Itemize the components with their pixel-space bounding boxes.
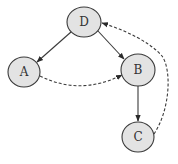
graph-diagram: D A B C	[0, 0, 178, 164]
node-b-label: B	[134, 63, 143, 77]
node-b: B	[121, 54, 155, 86]
node-a-label: A	[19, 65, 29, 79]
node-c: C	[122, 122, 154, 152]
node-a: A	[8, 57, 40, 87]
edge-a-to-b	[40, 75, 122, 86]
edge-d-to-b	[98, 31, 124, 59]
node-d: D	[67, 7, 101, 37]
edge-d-to-a	[37, 32, 71, 62]
node-c-label: C	[133, 130, 142, 144]
node-d-label: D	[79, 15, 89, 29]
